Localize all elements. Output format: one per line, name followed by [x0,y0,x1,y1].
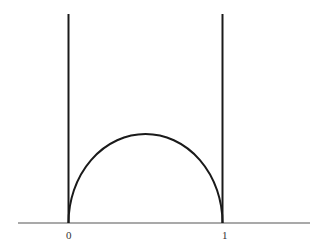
diagram-canvas [0,0,326,248]
axis-label-one: 1 [222,229,228,241]
semicircle-arc [69,134,223,223]
axis-label-zero: 0 [66,229,72,241]
